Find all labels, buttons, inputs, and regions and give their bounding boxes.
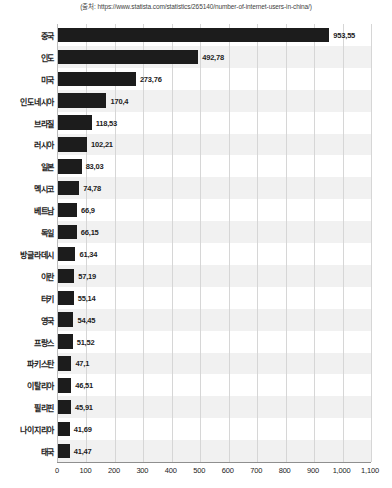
- bar-value-label: 66,15: [81, 228, 99, 237]
- internet-users-bar-chart: (출처: https://www.statista.com/statistics…: [0, 0, 392, 488]
- category-label: 베트남: [0, 205, 54, 216]
- bar-row[interactable]: 118,53: [58, 115, 371, 129]
- bar-value-label: 273,76: [140, 74, 162, 83]
- category-label: 프랑스: [0, 337, 54, 348]
- bar-value-label: 41,47: [74, 447, 92, 456]
- bar[interactable]: [58, 203, 77, 217]
- bar[interactable]: [58, 444, 70, 458]
- bar-value-label: 45,91: [75, 403, 93, 412]
- bar-value-label: 46,51: [75, 381, 93, 390]
- bar-value-label: 41,69: [74, 425, 92, 434]
- bar-row[interactable]: 170,4: [58, 93, 371, 107]
- category-label: 인도네시아: [0, 96, 54, 107]
- plot-area: 953,55492,78273,76170,4118,53102,2183,03…: [57, 24, 371, 462]
- category-label: 독일: [0, 227, 54, 238]
- category-label: 일본: [0, 161, 54, 172]
- bar-value-label: 61,34: [79, 249, 97, 258]
- bar-row[interactable]: 45,91: [58, 400, 371, 414]
- x-tick-label: 1,100: [361, 466, 379, 475]
- category-label: 태국: [0, 446, 54, 457]
- bar[interactable]: [58, 422, 70, 436]
- bar[interactable]: [58, 400, 71, 414]
- bar-row[interactable]: 61,34: [58, 247, 371, 261]
- bar-value-label: 83,03: [86, 162, 104, 171]
- bar-row[interactable]: 83,03: [58, 159, 371, 173]
- bar-row[interactable]: 51,52: [58, 334, 371, 348]
- bar-value-label: 170,4: [110, 96, 128, 105]
- bar[interactable]: [58, 269, 74, 283]
- category-axis: 중국인도미국인도네시아브라질러시아일본멕시코베트남독일방글라데시이란터키영국프랑…: [0, 24, 54, 462]
- bar-row[interactable]: 41,47: [58, 444, 371, 458]
- bar-value-label: 57,19: [78, 271, 96, 280]
- bar[interactable]: [58, 72, 136, 86]
- x-tick-label: 900: [307, 466, 319, 475]
- x-axis-tick-labels: 01002003004005006007008009001,0001,100: [0, 466, 392, 480]
- bar-value-label: 54,45: [77, 315, 95, 324]
- bar[interactable]: [58, 50, 198, 64]
- category-label: 러시아: [0, 139, 54, 150]
- category-label: 터키: [0, 293, 54, 304]
- x-tick-label: 0: [55, 466, 59, 475]
- x-tick-label: 600: [222, 466, 234, 475]
- x-tick-label: 200: [108, 466, 120, 475]
- bar-row[interactable]: 47,1: [58, 356, 371, 370]
- x-tick-label: 700: [250, 466, 262, 475]
- category-label: 멕시코: [0, 183, 54, 194]
- x-tick-label: 300: [136, 466, 148, 475]
- category-label: 필리핀: [0, 402, 54, 413]
- bar[interactable]: [58, 225, 77, 239]
- category-label: 이란: [0, 271, 54, 282]
- x-tick-label: 1,000: [333, 466, 351, 475]
- bar[interactable]: [58, 312, 73, 326]
- x-tick-label: 400: [165, 466, 177, 475]
- category-label: 방글라데시: [0, 249, 54, 260]
- x-tick-label: 100: [79, 466, 91, 475]
- bar-row[interactable]: 66,15: [58, 225, 371, 239]
- bar-value-label: 47,1: [75, 359, 89, 368]
- x-tick-label: 500: [193, 466, 205, 475]
- bar-row[interactable]: 66,9: [58, 203, 371, 217]
- category-label: 미국: [0, 74, 54, 85]
- bar-value-label: 492,78: [202, 52, 224, 61]
- bar-value-label: 102,21: [91, 140, 113, 149]
- bar[interactable]: [58, 334, 73, 348]
- bar[interactable]: [58, 247, 75, 261]
- category-label: 브라질: [0, 118, 54, 129]
- category-label: 중국: [0, 30, 54, 41]
- category-label: 파키스탄: [0, 358, 54, 369]
- bar-row[interactable]: 74,78: [58, 181, 371, 195]
- bar-row[interactable]: 54,45: [58, 312, 371, 326]
- bar-value-label: 118,53: [96, 118, 117, 127]
- category-label: 영국: [0, 315, 54, 326]
- bar-row[interactable]: 41,69: [58, 422, 371, 436]
- bar[interactable]: [58, 93, 106, 107]
- bar-value-label: 66,9: [81, 206, 95, 215]
- bar-value-label: 74,78: [83, 184, 101, 193]
- gridline: [371, 24, 372, 462]
- bar[interactable]: [58, 28, 329, 42]
- bar-row[interactable]: 273,76: [58, 72, 371, 86]
- bar[interactable]: [58, 159, 82, 173]
- x-tick-label: 800: [279, 466, 291, 475]
- bar-row[interactable]: 57,19: [58, 269, 371, 283]
- bar-value-label: 953,55: [333, 30, 355, 39]
- bar-layer: 953,55492,78273,76170,4118,53102,2183,03…: [58, 24, 371, 462]
- source-note: (출처: https://www.statista.com/statistics…: [0, 2, 392, 12]
- category-label: 인도: [0, 52, 54, 63]
- category-label: 나이지리아: [0, 424, 54, 435]
- bar-row[interactable]: 492,78: [58, 50, 371, 64]
- category-label: 이탈리아: [0, 380, 54, 391]
- bar[interactable]: [58, 181, 79, 195]
- bar-row[interactable]: 55,14: [58, 291, 371, 305]
- bar[interactable]: [58, 356, 71, 370]
- bar[interactable]: [58, 378, 71, 392]
- bar-value-label: 55,14: [78, 293, 96, 302]
- bar-row[interactable]: 953,55: [58, 28, 371, 42]
- bar[interactable]: [58, 115, 92, 129]
- bar-row[interactable]: 46,51: [58, 378, 371, 392]
- bar-value-label: 51,52: [77, 337, 95, 346]
- bar[interactable]: [58, 137, 87, 151]
- x-axis-line: [57, 462, 371, 463]
- bar-row[interactable]: 102,21: [58, 137, 371, 151]
- bar[interactable]: [58, 291, 74, 305]
